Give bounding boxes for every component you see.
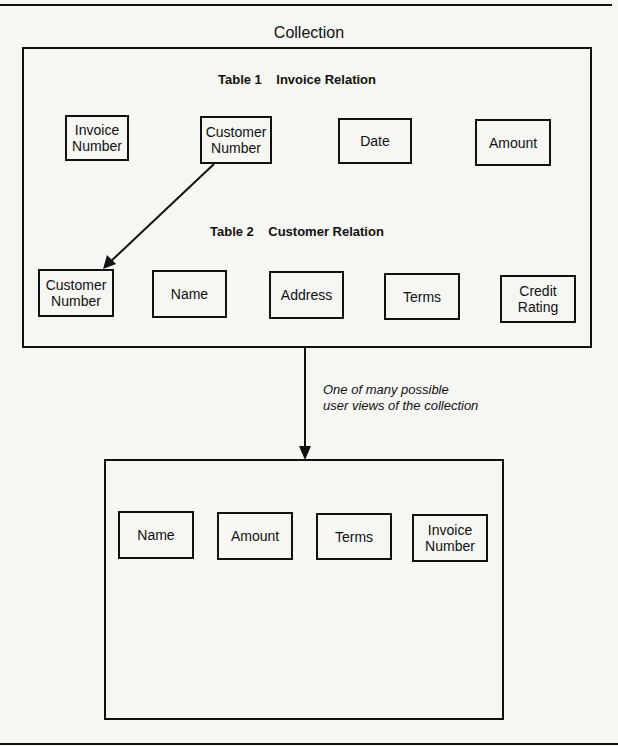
table1-field-customer-number: Customer Number — [200, 116, 272, 164]
top-rule — [0, 4, 612, 6]
field-label: Customer Number — [46, 277, 107, 309]
bottom-rule — [0, 743, 618, 745]
field-label: Name — [171, 286, 208, 302]
table1-field-invoice-number: Invoice Number — [65, 115, 129, 161]
field-label: Name — [137, 527, 174, 543]
field-label: Credit Rating — [518, 283, 558, 315]
field-label: Invoice Number — [425, 522, 475, 554]
table2-field-address: Address — [269, 271, 344, 319]
diagram-title: Collection — [0, 24, 618, 42]
table2-field-terms: Terms — [384, 273, 460, 320]
table2-field-name: Name — [152, 270, 227, 318]
field-label: Amount — [231, 528, 279, 544]
field-label: Customer Number — [206, 124, 267, 156]
user-view-frame — [104, 459, 504, 720]
table1-field-date: Date — [338, 118, 412, 164]
field-label: Terms — [335, 529, 373, 545]
field-label: Amount — [489, 135, 537, 151]
table2-field-credit-rating: Credit Rating — [500, 275, 576, 323]
field-label: Terms — [403, 289, 441, 305]
field-label: Invoice Number — [72, 122, 122, 154]
view-down-arrow-icon — [299, 348, 311, 460]
view-annotation: One of many possible user views of the c… — [323, 382, 478, 414]
view-field-amount: Amount — [217, 512, 293, 560]
table1-field-amount: Amount — [475, 119, 551, 166]
annotation-line-2: user views of the collection — [323, 398, 478, 414]
table1-caption: Table 1 Invoice Relation — [218, 72, 376, 87]
table2-caption: Table 2 Customer Relation — [210, 224, 384, 239]
table2-field-customer-number: Customer Number — [38, 269, 114, 317]
view-field-name: Name — [118, 511, 194, 559]
view-field-terms: Terms — [316, 513, 392, 560]
field-label: Date — [360, 133, 390, 149]
view-field-invoice-number: Invoice Number — [412, 514, 488, 562]
field-label: Address — [281, 287, 332, 303]
annotation-line-1: One of many possible — [323, 382, 478, 398]
